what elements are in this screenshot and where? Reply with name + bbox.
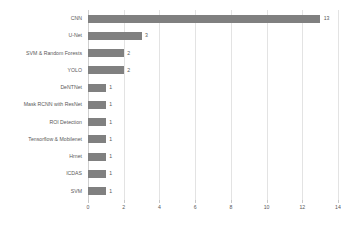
bar-value-label: 1 bbox=[109, 171, 112, 176]
bar bbox=[88, 170, 106, 178]
bar bbox=[88, 153, 106, 161]
x-tick-10 bbox=[267, 200, 268, 203]
bar-value-label: 1 bbox=[109, 102, 112, 107]
x-tick-14 bbox=[338, 200, 339, 203]
x-tick-0 bbox=[88, 200, 89, 203]
x-tick-6 bbox=[195, 200, 196, 203]
bar bbox=[88, 187, 106, 195]
bar-value-label: 1 bbox=[109, 189, 112, 194]
bar bbox=[88, 118, 106, 126]
bar bbox=[88, 15, 320, 23]
bar bbox=[88, 66, 124, 74]
bar bbox=[88, 101, 106, 109]
bar-row: 1 bbox=[88, 114, 338, 131]
x-tick-label: 4 bbox=[158, 205, 161, 210]
x-tick-label: 14 bbox=[335, 205, 341, 210]
x-tick-label: 8 bbox=[229, 205, 232, 210]
bar-value-label: 3 bbox=[145, 33, 148, 38]
bar-row: 3 bbox=[88, 27, 338, 44]
category-label: SVM & Random Forests bbox=[0, 45, 85, 62]
x-tick-label: 2 bbox=[122, 205, 125, 210]
category-axis-labels: CNNU-NetSVM & Random ForestsYOLODeNTNetM… bbox=[0, 10, 85, 200]
x-tick-label: 10 bbox=[264, 205, 270, 210]
category-label: YOLO bbox=[0, 62, 85, 79]
bar-row: 1 bbox=[88, 148, 338, 165]
x-axis: 02468101214 bbox=[88, 200, 338, 220]
bar-value-label: 13 bbox=[324, 16, 330, 21]
x-tick-label: 12 bbox=[299, 205, 305, 210]
bar-row: 2 bbox=[88, 62, 338, 79]
category-label: Tensorflow & Mobilenet bbox=[0, 131, 85, 148]
plot-area: 133221111111 bbox=[88, 10, 338, 200]
bar-row: 13 bbox=[88, 10, 338, 27]
x-tick-4 bbox=[159, 200, 160, 203]
bar-row: 1 bbox=[88, 96, 338, 113]
category-label: ROI Detection bbox=[0, 114, 85, 131]
x-tick-label: 6 bbox=[194, 205, 197, 210]
bar-value-label: 2 bbox=[127, 51, 130, 56]
bar-value-label: 1 bbox=[109, 85, 112, 90]
category-label: ICDAS bbox=[0, 165, 85, 182]
category-label: DeNTNet bbox=[0, 79, 85, 96]
category-label: U-Net bbox=[0, 27, 85, 44]
bar-value-label: 1 bbox=[109, 137, 112, 142]
bar bbox=[88, 135, 106, 143]
x-tick-2 bbox=[124, 200, 125, 203]
bar bbox=[88, 32, 142, 40]
bar bbox=[88, 49, 124, 57]
category-label: SVM bbox=[0, 183, 85, 200]
bar-row: 1 bbox=[88, 165, 338, 182]
bar-value-label: 1 bbox=[109, 154, 112, 159]
bar-value-label: 1 bbox=[109, 120, 112, 125]
bar-value-label: 2 bbox=[127, 68, 130, 73]
bar-row: 1 bbox=[88, 131, 338, 148]
bar-row: 1 bbox=[88, 79, 338, 96]
x-tick-12 bbox=[302, 200, 303, 203]
category-label: CNN bbox=[0, 10, 85, 27]
bar-row: 1 bbox=[88, 183, 338, 200]
gridline-14 bbox=[338, 10, 339, 200]
bar-row: 2 bbox=[88, 45, 338, 62]
category-label: Hrnet bbox=[0, 148, 85, 165]
bar bbox=[88, 84, 106, 92]
x-tick-8 bbox=[231, 200, 232, 203]
x-tick-label: 0 bbox=[87, 205, 90, 210]
category-label: Mask RCNN with ResNet bbox=[0, 96, 85, 113]
bar-rows: 133221111111 bbox=[88, 10, 338, 200]
